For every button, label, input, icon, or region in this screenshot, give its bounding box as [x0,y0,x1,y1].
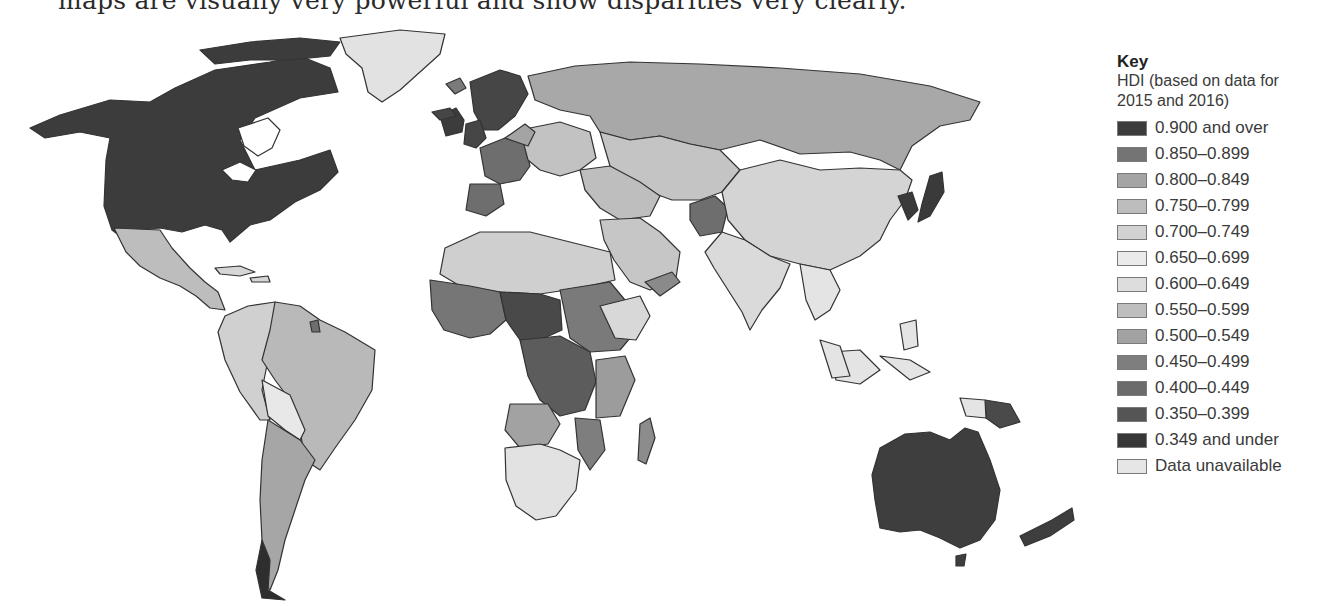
legend-subtitle-line1: HDI (based on data for [1117,71,1318,91]
legend-swatch-icon [1117,251,1147,266]
region-russia [528,62,980,170]
legend-swatch-icon [1117,433,1147,448]
legend-label: 0.400–0.449 [1155,378,1250,398]
legend-swatch-icon [1117,407,1147,422]
region-new-zealand [1020,508,1074,546]
region-north-america [30,38,340,242]
legend-swatch-icon [1117,303,1147,318]
legend-subtitle-line2: 2015 and 2016) [1117,91,1318,111]
legend-item: 0.500–0.549 [1117,323,1318,349]
legend-label: 0.700–0.749 [1155,222,1250,242]
legend-label: 0.600–0.649 [1155,274,1250,294]
region-africa [430,232,650,520]
legend-label: 0.900 and over [1155,118,1268,138]
legend-swatch-icon [1117,173,1147,188]
legend-swatch-icon [1117,355,1147,370]
region-australia [872,428,1000,548]
legend-label: Data unavailable [1155,456,1282,476]
legend-label: 0.349 and under [1155,430,1279,450]
legend-item: 0.350–0.399 [1117,401,1318,427]
legend-item: Data unavailable [1117,453,1318,479]
region-south-america [218,302,375,600]
legend-subtitle: HDI (based on data for 2015 and 2016) [1117,71,1318,111]
legend-item: 0.850–0.899 [1117,141,1318,167]
legend-item: 0.750–0.799 [1117,193,1318,219]
legend-item: 0.900 and over [1117,115,1318,141]
legend-item: 0.700–0.749 [1117,219,1318,245]
legend-item: 0.349 and under [1117,427,1318,453]
region-tasmania [956,554,966,566]
legend-swatch-icon [1117,121,1147,136]
legend-label: 0.550–0.599 [1155,300,1250,320]
region-central-america [114,228,225,310]
caption-text: maps are visually very powerful and show… [58,0,907,15]
legend-label: 0.350–0.399 [1155,404,1250,424]
legend-item: 0.550–0.599 [1117,297,1318,323]
legend-label: 0.450–0.499 [1155,352,1250,372]
legend-swatch-icon [1117,277,1147,292]
legend-label: 0.650–0.699 [1155,248,1250,268]
legend-label: 0.800–0.849 [1155,170,1250,190]
legend-label: 0.850–0.899 [1155,144,1250,164]
legend-swatch-icon [1117,147,1147,162]
world-hdi-map [0,20,1090,606]
legend-item: 0.400–0.449 [1117,375,1318,401]
legend-item: 0.600–0.649 [1117,271,1318,297]
legend-item: 0.650–0.699 [1117,245,1318,271]
legend-swatch-icon [1117,225,1147,240]
legend-items: 0.900 and over0.850–0.8990.800–0.8490.75… [1117,115,1318,479]
legend-title: Key [1117,52,1318,71]
legend-label: 0.750–0.799 [1155,196,1250,216]
region-caribbean [215,266,270,282]
legend-item: 0.800–0.849 [1117,167,1318,193]
legend-swatch-icon [1117,459,1147,474]
legend-swatch-icon [1117,381,1147,396]
region-papua-indonesia [960,398,986,418]
region-greenland [340,30,445,102]
region-papua-new-guinea [985,400,1020,428]
legend-swatch-icon [1117,199,1147,214]
map-legend: Key HDI (based on data for 2015 and 2016… [1117,52,1318,479]
region-madagascar [638,418,655,464]
legend-item: 0.450–0.499 [1117,349,1318,375]
region-southeast-asia [800,264,930,384]
legend-swatch-icon [1117,329,1147,344]
legend-label: 0.500–0.549 [1155,326,1250,346]
